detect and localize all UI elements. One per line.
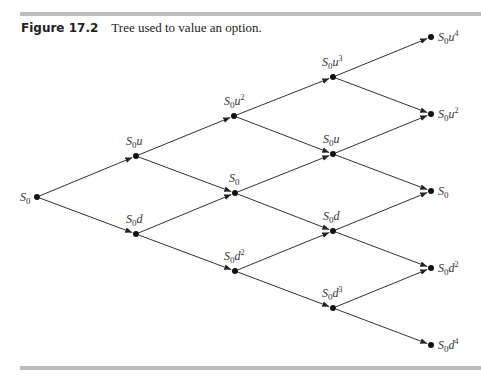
tree-node [428,265,434,271]
tree-node [133,153,139,159]
tree-node [330,305,336,311]
node-label: S0 [229,171,240,187]
tree-edge [40,198,132,233]
tree-edge [336,309,427,344]
tree-edge [139,235,231,270]
tree-edge [40,158,133,196]
bottom-rule [20,366,481,370]
tree-node [330,228,336,234]
tree-node [330,151,336,157]
binomial-tree-diagram: S0S0uS0dS0u2S0S0d2S0u3S0uS0dS0d3S0u4S0u2… [0,0,481,380]
node-label: S0 [438,184,449,200]
tree-edge [237,117,329,152]
tree-edge [139,195,232,233]
tree-node [231,113,237,119]
node-label: S0u [126,134,143,150]
tree-node [232,190,238,196]
node-label: S0d2 [224,248,245,265]
tree-edge [336,155,427,190]
tree-edge [336,193,428,230]
tree-edge [238,272,329,307]
tree-node [330,74,336,80]
tree-node [232,268,238,274]
tree-node [133,231,139,237]
tree-node [34,194,40,200]
tree-edge [139,118,231,155]
node-label: S0d4 [438,337,459,354]
tree-edge [238,155,329,191]
tree-nodes [34,34,434,348]
node-label: S0d3 [322,285,343,302]
node-label: S0d [126,212,144,228]
node-label: S0d2 [438,260,459,277]
tree-edge [237,78,329,114]
node-label: S0d [323,209,341,225]
node-label: S0u [323,132,340,148]
tree-edge [336,78,427,113]
tree-edge [336,232,427,267]
tree-edge [139,157,231,192]
tree-node [428,188,434,194]
node-label: S0u4 [438,29,459,46]
tree-edge [336,270,428,307]
tree-node [428,342,434,348]
node-label: S0 [20,190,31,206]
tree-edge [336,39,428,76]
tree-edge [336,116,428,153]
node-label: S0u2 [438,106,459,123]
tree-node [428,111,434,117]
tree-edge [238,194,329,229]
tree-node [428,34,434,40]
node-label: S0u2 [224,93,245,110]
tree-edge [238,233,330,270]
node-label: S0u3 [322,54,343,71]
